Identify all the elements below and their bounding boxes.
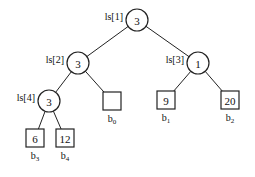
node-label: ls[3]: [166, 54, 184, 65]
edge-n1-n2: [87, 26, 128, 56]
node-value: 1: [195, 58, 201, 70]
leaf-label-subscript: 1: [167, 117, 171, 125]
leaf-node-b0: b0: [103, 92, 121, 126]
leaf-node-b3: 6b3: [26, 129, 44, 163]
internal-node: 3ls[2]: [46, 52, 89, 74]
edge-n2-b0: [85, 71, 104, 92]
leaf-value: 20: [225, 95, 237, 107]
leaf-label: b0: [108, 113, 117, 126]
leaf-label-subscript: 4: [66, 155, 70, 163]
leaf-label-subscript: 3: [36, 155, 40, 163]
leaf-label-subscript: 2: [231, 117, 235, 125]
edge-n2-n4: [56, 72, 72, 93]
node-label: ls[2]: [46, 54, 64, 65]
node-value: 3: [75, 58, 81, 70]
edge-n1-n3: [146, 26, 189, 56]
leaf-label: b2: [226, 112, 235, 125]
leaf-label: b1: [162, 112, 171, 125]
edge-n3-b2: [205, 71, 222, 91]
edge-n3-b1: [174, 71, 191, 91]
leaf-label: b3: [31, 150, 40, 163]
leaf-value: 12: [60, 133, 71, 145]
leaf-node-b1: 9b1: [157, 91, 175, 125]
leaf-value: 9: [163, 95, 169, 107]
nodes: 3ls[1]3ls[2]1ls[3]3ls[4]b09b120b26b312b4: [17, 9, 239, 163]
node-value: 3: [134, 15, 140, 27]
edge-n4-b3: [38, 111, 45, 129]
leaf-label: b4: [61, 150, 70, 163]
edges: [38, 26, 222, 129]
leaf-value: 6: [32, 133, 38, 145]
leaf-node-b4: 12b4: [56, 129, 74, 163]
leaf-node-b2: 20b2: [221, 91, 239, 125]
node-label: ls[1]: [105, 11, 123, 22]
leaf-label-subscript: 0: [113, 118, 117, 126]
edge-n4-b4: [53, 111, 61, 129]
tree-diagram: 3ls[1]3ls[2]1ls[3]3ls[4]b09b120b26b312b4: [0, 0, 255, 177]
node-value: 3: [46, 96, 52, 108]
node-label: ls[4]: [17, 92, 35, 103]
internal-node: 3ls[4]: [17, 90, 60, 112]
leaf-box: [103, 92, 121, 110]
